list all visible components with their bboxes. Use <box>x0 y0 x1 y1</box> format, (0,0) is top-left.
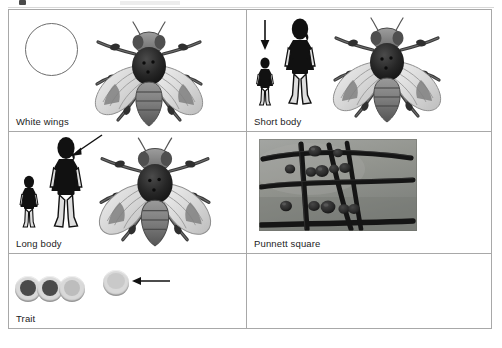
cell-white-wings-art <box>9 10 246 114</box>
cell-label-white-wings: White wings <box>16 116 69 127</box>
remnant-blob <box>19 0 26 5</box>
disc-core <box>42 280 58 296</box>
fruit-fly-illustration <box>91 20 207 128</box>
tall-person-silhouette <box>280 18 322 108</box>
short-person-silhouette <box>252 57 278 107</box>
trait-disc-light-1 <box>59 276 85 302</box>
cell-punnett-square[interactable]: Punnett square <box>247 132 491 254</box>
trait-table: White wings <box>8 9 492 329</box>
cell-short-body-art <box>247 10 491 114</box>
cell-label-short-body: Short body <box>254 116 301 127</box>
cell-label-long-body: Long body <box>16 238 62 249</box>
cell-long-body[interactable]: Long body <box>9 132 247 254</box>
cell-long-body-art <box>9 132 246 236</box>
fruit-fly-illustration <box>329 16 445 124</box>
cell-short-body[interactable]: Short body <box>247 10 491 132</box>
cell-label-punnett-square: Punnett square <box>254 238 321 249</box>
cut-off-row-remnant <box>0 0 502 9</box>
short-person-silhouette <box>15 175 43 229</box>
fruit-fly-illustration <box>93 136 217 248</box>
disc-core <box>107 273 125 289</box>
disc-core <box>20 280 36 296</box>
disc-core <box>64 280 80 296</box>
down-arrow-icon <box>258 19 272 51</box>
remnant-divider-line <box>8 7 494 8</box>
punnett-square-photo <box>259 139 417 231</box>
cell-trait[interactable]: Trait <box>9 254 247 328</box>
cell-trait-art <box>9 254 246 311</box>
remnant-ghost-text <box>120 1 180 5</box>
trait-disc-light-selected <box>103 270 129 296</box>
pointer-arrow-icon <box>131 275 171 287</box>
cell-label-trait: Trait <box>16 313 35 324</box>
cell-empty[interactable] <box>247 254 491 328</box>
cell-white-wings[interactable]: White wings <box>9 10 247 132</box>
cell-empty-art <box>247 254 491 311</box>
cell-punnett-square-art <box>247 132 491 236</box>
white-wings-circle <box>25 23 78 76</box>
